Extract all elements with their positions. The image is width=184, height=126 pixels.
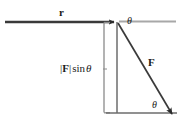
abs-vector-F: F (62, 62, 69, 74)
perpendicular-component-label: |F|sinθ (60, 63, 91, 74)
force-vector-label: F (148, 57, 155, 68)
force-vector-F-line (118, 23, 172, 114)
sin-angle-theta: θ (85, 62, 91, 74)
position-vector-label: r (59, 7, 64, 18)
angle-theta-bottom-label: θ (152, 100, 157, 110)
angle-theta-top-label: θ (127, 16, 132, 26)
sin-function-name: sin (71, 62, 85, 74)
torque-vector-diagram: r θ F θ |F|sinθ (0, 0, 184, 126)
